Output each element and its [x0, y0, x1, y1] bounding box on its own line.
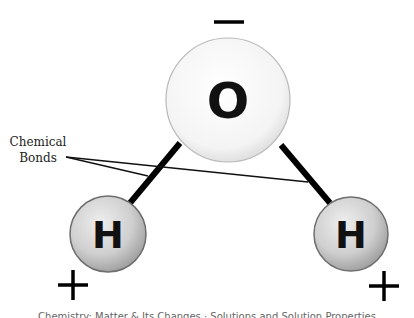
label-line-1: Chemical [2, 134, 74, 150]
hydrogen-symbol: H [335, 213, 367, 257]
water-molecule-diagram: O H H Chemical Bonds Chemistry: Matter &… [0, 0, 414, 318]
positive-charge-icon-right [369, 271, 399, 301]
oxygen-atom: O [166, 38, 290, 162]
chemical-bond-right [281, 145, 330, 203]
hydrogen-symbol: H [92, 213, 124, 257]
chemical-bonds-label: Chemical Bonds [2, 134, 74, 166]
label-pointer-line [66, 157, 308, 182]
hydrogen-atom-right: H [314, 197, 388, 271]
footer-caption: Chemistry: Matter & Its Changes · Soluti… [0, 310, 414, 318]
label-pointer-line [66, 157, 148, 176]
hydrogen-atom-left: H [70, 196, 146, 272]
positive-charge-icon-left [58, 270, 88, 300]
label-line-2: Bonds [2, 150, 74, 166]
oxygen-symbol: O [207, 72, 250, 130]
